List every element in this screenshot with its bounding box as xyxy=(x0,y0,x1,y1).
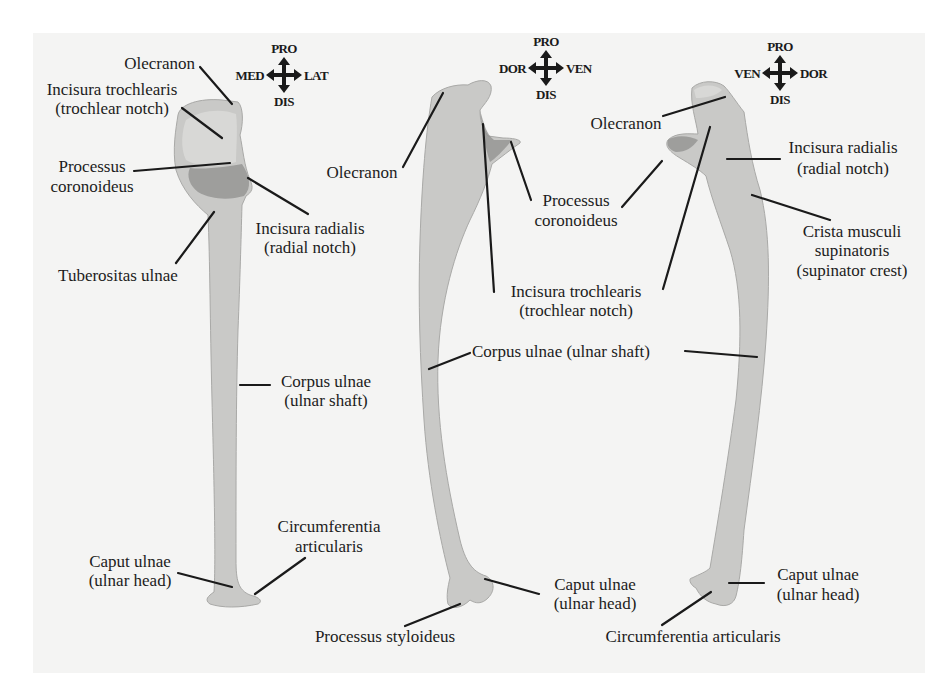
svg-text:Caput ulnae: Caput ulnae xyxy=(554,575,636,594)
compass-left-label: DOR xyxy=(499,61,527,76)
svg-text:(supinator crest): (supinator crest) xyxy=(797,261,908,280)
svg-text:(ulnar head): (ulnar head) xyxy=(554,594,637,613)
svg-text:Processus: Processus xyxy=(58,157,125,176)
svg-text:Crista musculi: Crista musculi xyxy=(803,222,902,241)
svg-text:(trochlear notch): (trochlear notch) xyxy=(55,99,169,118)
compass-down-label: DIS xyxy=(274,94,294,109)
svg-text:Corpus ulnae: Corpus ulnae xyxy=(281,372,371,391)
compass-up-label: PRO xyxy=(767,39,793,54)
svg-text:Olecranon: Olecranon xyxy=(124,54,195,73)
svg-text:(ulnar head): (ulnar head) xyxy=(777,585,860,604)
svg-text:Processus styloideus: Processus styloideus xyxy=(315,627,455,646)
svg-text:Incisura trochlearis: Incisura trochlearis xyxy=(47,80,178,99)
svg-text:articularis: articularis xyxy=(295,537,363,556)
svg-text:Incisura trochlearis: Incisura trochlearis xyxy=(511,282,642,301)
svg-text:Corpus ulnae (ulnar shaft): Corpus ulnae (ulnar shaft) xyxy=(472,342,650,361)
svg-text:(trochlear notch): (trochlear notch) xyxy=(519,301,633,320)
svg-text:Caput ulnae: Caput ulnae xyxy=(89,552,171,571)
svg-text:Tuberositas ulnae: Tuberositas ulnae xyxy=(58,266,178,285)
compass-right-label: DOR xyxy=(800,66,828,81)
svg-text:Processus: Processus xyxy=(542,191,609,210)
compass-left-label: MED xyxy=(235,68,264,83)
compass-right-label: LAT xyxy=(304,68,329,83)
svg-text:Olecranon: Olecranon xyxy=(327,163,398,182)
compass-up-label: PRO xyxy=(271,41,297,56)
svg-text:Incisura radialis: Incisura radialis xyxy=(255,219,364,238)
svg-text:coronoideus: coronoideus xyxy=(50,177,133,196)
compass-down-label: DIS xyxy=(770,92,790,107)
compass-right-label: VEN xyxy=(566,61,593,76)
svg-text:(ulnar head): (ulnar head) xyxy=(89,571,172,590)
svg-text:coronoideus: coronoideus xyxy=(534,211,617,230)
svg-text:Caput ulnae: Caput ulnae xyxy=(777,565,859,584)
svg-text:supinatoris: supinatoris xyxy=(815,241,890,260)
svg-text:(radial notch): (radial notch) xyxy=(264,238,356,257)
svg-text:(ulnar shaft): (ulnar shaft) xyxy=(284,391,368,410)
svg-text:Circumferentia: Circumferentia xyxy=(278,517,381,536)
svg-text:(radial notch): (radial notch) xyxy=(797,159,889,178)
ulna-anatomy-figure: PRO MED LAT DIS PRO DOR VEN DIS PRO VEN … xyxy=(0,0,948,692)
compass-down-label: DIS xyxy=(536,87,556,102)
svg-text:Incisura radialis: Incisura radialis xyxy=(788,138,897,157)
svg-text:Circumferentia articularis: Circumferentia articularis xyxy=(605,627,780,646)
compass-left-label: VEN xyxy=(734,66,761,81)
svg-text:Olecranon: Olecranon xyxy=(591,114,662,133)
compass-up-label: PRO xyxy=(533,34,559,49)
